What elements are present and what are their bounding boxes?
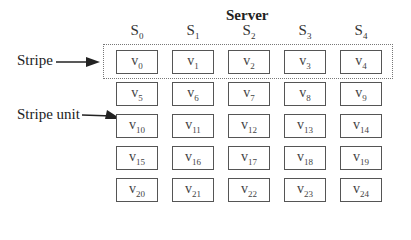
unit-v18: v18 — [284, 146, 326, 170]
stripe-arrow-icon — [56, 57, 100, 67]
unit-v5: v5 — [116, 82, 158, 106]
unit-v19: v19 — [340, 146, 382, 170]
unit-v2: v2 — [228, 50, 270, 74]
unit-v10: v10 — [116, 114, 158, 138]
unit-v1: v1 — [172, 50, 214, 74]
unit-v12: v12 — [228, 114, 270, 138]
unit-v4: v4 — [340, 50, 382, 74]
unit-v23: v23 — [284, 178, 326, 202]
unit-v11: v11 — [172, 114, 214, 138]
unit-v3: v3 — [284, 50, 326, 74]
unit-v21: v21 — [172, 178, 214, 202]
unit-v14: v14 — [340, 114, 382, 138]
unit-v15: v15 — [116, 146, 158, 170]
unit-v17: v17 — [228, 146, 270, 170]
unit-v20: v20 — [116, 178, 158, 202]
unit-v9: v9 — [340, 82, 382, 106]
unit-v6: v6 — [172, 82, 214, 106]
unit-v7: v7 — [228, 82, 270, 106]
unit-v24: v24 — [340, 178, 382, 202]
unit-v16: v16 — [172, 146, 214, 170]
unit-v22: v22 — [228, 178, 270, 202]
unit-v8: v8 — [284, 82, 326, 106]
unit-v13: v13 — [284, 114, 326, 138]
unit-v0: v0 — [116, 50, 158, 74]
